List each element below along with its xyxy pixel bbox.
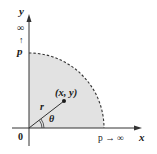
y-radius-label: p	[16, 45, 23, 57]
y-up-arrow-icon: ↑	[19, 35, 24, 45]
x-radius-limit-label: p → ∞	[98, 133, 124, 143]
point-marker	[62, 99, 66, 103]
polar-quarter-disk-diagram: y ∞ ↑ p (x, y) r θ 0 p → ∞ x	[0, 0, 157, 154]
y-axis-arrowhead-icon	[27, 14, 32, 22]
x-axis-arrowhead-icon	[134, 126, 142, 131]
x-axis-label: x	[138, 131, 145, 143]
origin-label: 0	[18, 131, 23, 142]
y-infinity-label: ∞	[17, 22, 24, 33]
y-axis-label: y	[17, 5, 24, 17]
angle-label: θ	[49, 113, 55, 124]
point-label: (x, y)	[55, 87, 77, 99]
radius-label: r	[40, 101, 44, 112]
